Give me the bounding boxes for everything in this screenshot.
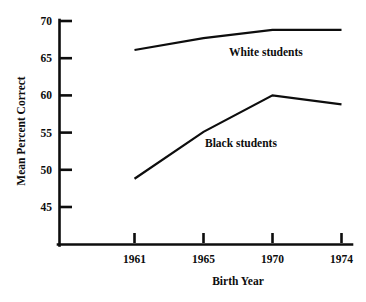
y-tick-label-45: 45 bbox=[41, 201, 53, 213]
x-tick-label-1974: 1974 bbox=[330, 253, 353, 265]
y-tick-label-70: 70 bbox=[41, 15, 53, 27]
series-label-black-students: Black students bbox=[205, 137, 277, 149]
y-axis-title: Mean Percent Correct bbox=[15, 76, 27, 186]
x-tick-label-1970: 1970 bbox=[261, 253, 284, 265]
y-tick-label-65: 65 bbox=[41, 52, 53, 64]
x-tick-label-1961: 1961 bbox=[123, 253, 146, 265]
chart-container: 45 50 55 60 65 70 1961 1965 1970 1974 Bi… bbox=[0, 0, 366, 302]
x-axis-title: Birth Year bbox=[212, 275, 264, 287]
y-tick-label-50: 50 bbox=[41, 164, 53, 176]
line-chart: 45 50 55 60 65 70 1961 1965 1970 1974 Bi… bbox=[0, 0, 366, 302]
x-tick-label-1965: 1965 bbox=[192, 253, 215, 265]
y-tick-label-55: 55 bbox=[41, 127, 53, 139]
y-tick-label-60: 60 bbox=[41, 89, 53, 101]
series-label-white-students: White students bbox=[229, 46, 303, 58]
